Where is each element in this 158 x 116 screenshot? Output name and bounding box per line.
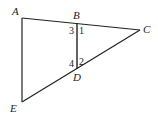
point-label-d: D bbox=[72, 71, 81, 83]
geometry-diagram: A B C D E 1 2 3 4 bbox=[0, 0, 158, 116]
point-label-b: B bbox=[73, 9, 80, 21]
point-label-e: E bbox=[9, 102, 17, 114]
angle-label-2: 2 bbox=[79, 56, 84, 67]
point-label-a: A bbox=[11, 5, 19, 17]
angle-label-4: 4 bbox=[69, 58, 74, 69]
point-label-c: C bbox=[143, 23, 151, 35]
angle-label-3: 3 bbox=[69, 25, 74, 36]
angle-label-1: 1 bbox=[79, 25, 84, 36]
